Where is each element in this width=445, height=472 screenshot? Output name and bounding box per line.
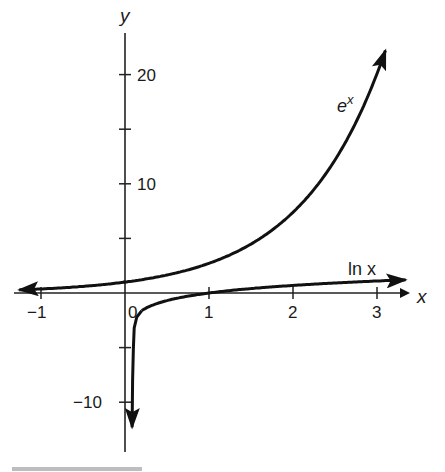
x-axis-label: x: [416, 286, 428, 307]
y-ticks: −101020: [73, 66, 156, 413]
x-tick-label: 3: [372, 303, 381, 322]
exp-label: ex: [337, 92, 354, 116]
exp-curve: [123, 51, 385, 283]
axes: −10123 −101020 x y: [14, 5, 428, 452]
ln-down-arrow: [132, 311, 142, 428]
x-tick-label: 2: [288, 303, 297, 322]
y-tick-label: 20: [137, 66, 156, 85]
y-tick-label: 10: [137, 175, 156, 194]
function-graph: −10123 −101020 x y ex ln x: [0, 0, 445, 472]
y-axis-label: y: [118, 5, 131, 26]
x-tick-label: 1: [204, 303, 213, 322]
ln-curve: [142, 280, 406, 311]
x-tick-label: −1: [27, 303, 46, 322]
exp-left-arrow: [19, 282, 125, 290]
figure-caption: [12, 467, 142, 471]
y-tick-label: −10: [73, 393, 102, 412]
ln-label: ln x: [348, 259, 376, 279]
